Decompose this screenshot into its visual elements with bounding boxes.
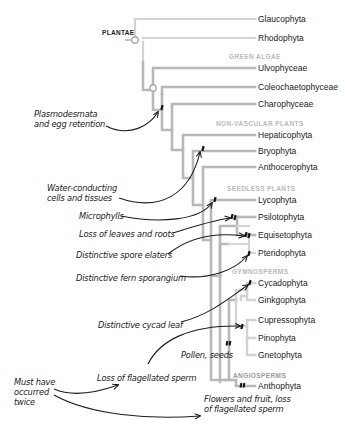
note-cycad-leaf: Distinctive cycad leaf — [98, 320, 183, 330]
branches-ferns — [229, 226, 255, 253]
branches-seed-plants — [211, 276, 255, 386]
clade-label-green-algae: GREEN ALGAE — [229, 53, 281, 61]
green-plants-node-icon — [150, 85, 156, 91]
taxon-equisetophyta: Equisetophyta — [258, 230, 312, 240]
note-fern-sporangium: Distinctive fern sporangium — [76, 273, 186, 283]
taxon-ginkgophyta: Ginkgophyta — [258, 295, 306, 305]
clade-label-angiosperms: ANGIOSPERMS — [233, 372, 286, 380]
arrow-twice-to-angio — [54, 395, 200, 417]
taxon-coleochaetophyceae: Coleochaetophyceae — [258, 82, 338, 92]
taxon-cupressophyta: Cupressophyta — [258, 315, 315, 325]
taxon-lycophyta: Lycophyta — [258, 195, 296, 205]
trait-markers — [160, 105, 251, 388]
root-label: PLANTAE — [102, 29, 134, 36]
taxon-anthocerophyta: Anthocerophyta — [258, 162, 318, 172]
note-pollen-seeds: Pollen, seeds — [181, 350, 233, 360]
taxon-rhodophyta: Rhodophyta — [258, 33, 304, 43]
note-must-have-occurred-twice: Must have occurred twice — [14, 377, 55, 407]
note-loss-flagellated-sperm: Loss of flagellated sperm — [97, 373, 196, 383]
taxon-gnetophyta: Gnetophyta — [258, 350, 302, 360]
clade-label-non-vascular: NON-VASCULAR PLANTS — [216, 120, 304, 128]
note-spore-elaters: Distinctive spore elaters — [76, 250, 172, 260]
taxon-anthophyta: Anthophyta — [258, 381, 301, 391]
taxon-pteridophyta: Pteridophyta — [258, 248, 306, 258]
clade-label-gymnosperms: GYMNOSPERMS — [232, 268, 288, 276]
branches-seedless — [203, 200, 255, 276]
note-plasmodesmata: Plasmodesmata and egg retention — [34, 109, 105, 129]
arrow-plasmodesmata — [106, 112, 158, 131]
note-flowers-fruit: Flowers and fruit, loss of flagellated s… — [204, 394, 291, 414]
branches-non-vascular — [172, 130, 255, 205]
taxon-hepaticophyta: Hepaticophyta — [258, 130, 312, 140]
taxon-glaucophyta: Glaucophyta — [258, 14, 306, 24]
branches-gymnosperms — [236, 283, 255, 355]
note-microphylls: Microphylls — [79, 211, 124, 221]
taxon-cycadophyta: Cycadophyta — [258, 278, 308, 288]
note-water-conducting: Water-conducting cells and tissues — [47, 183, 117, 203]
arrow-twice-to-gymno — [54, 385, 118, 394]
clade-label-seedless: SEEDLESS PLANTS — [227, 185, 295, 193]
root-node-icon — [132, 37, 138, 43]
note-loss-leaves-roots: Loss of leaves and roots — [79, 229, 175, 239]
taxon-pinophyta: Pinophyta — [258, 333, 296, 343]
taxon-charophyceae: Charophyceae — [258, 99, 313, 109]
taxon-bryophyta: Bryophyta — [258, 146, 296, 156]
taxon-psilotophyta: Psilotophyta — [258, 212, 304, 222]
taxon-ulvophyceae: Ulvophyceae — [258, 63, 307, 73]
